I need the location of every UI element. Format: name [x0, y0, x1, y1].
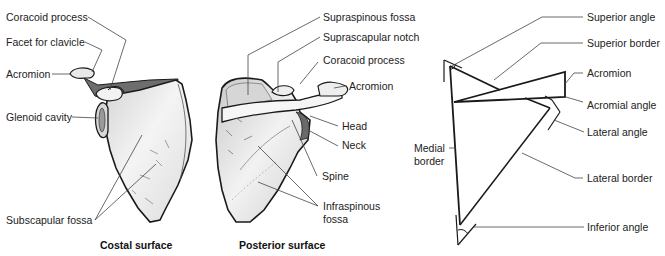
label-posterior-coracoid-process: Coracoid process	[323, 54, 405, 66]
label-posterior-spine: Spine	[322, 170, 349, 182]
label-acromial-angle: Acromial angle	[587, 99, 656, 111]
label-lateral-border: Lateral border	[587, 172, 652, 184]
caption-costal-surface: Costal surface	[100, 239, 172, 251]
label-costal-facet-for-clavicle: Facet for clavicle	[6, 36, 85, 48]
label-superior-angle: Superior angle	[587, 11, 655, 23]
label-superior-border: Superior border	[587, 37, 660, 49]
label-costal-coracoid-process: Coracoid process	[6, 11, 88, 23]
label-posterior-infraspinous-line2: fossa	[323, 213, 348, 225]
label-posterior-infraspinous-line1: Infraspinous	[323, 200, 380, 212]
label-posterior-acromion: Acromion	[349, 80, 393, 92]
label-posterior-suprascapular-notch: Suprascapular notch	[323, 31, 419, 43]
label-costal-acromion: Acromion	[6, 68, 50, 80]
label-posterior-supraspinous-fossa: Supraspinous fossa	[323, 11, 415, 23]
label-costal-glenoid-cavity: Glenoid cavity	[6, 111, 72, 123]
costal-scapula-drawing	[70, 68, 192, 222]
caption-posterior-surface: Posterior surface	[239, 239, 325, 251]
label-acromion: Acromion	[587, 67, 631, 79]
label-posterior-neck: Neck	[342, 139, 366, 151]
label-medial-border-line2: border	[414, 155, 444, 167]
label-medial-border-line1: Medial	[414, 142, 445, 154]
label-inferior-angle: Inferior angle	[587, 221, 648, 233]
label-posterior-head: Head	[342, 120, 367, 132]
label-lateral-angle: Lateral angle	[587, 126, 648, 138]
schematic-scapula-drawing	[444, 60, 565, 245]
label-costal-subscapular-fossa: Subscapular fossa	[6, 214, 92, 226]
scapula-diagram: Coracoid process Facet for clavicle Acro…	[0, 0, 665, 256]
